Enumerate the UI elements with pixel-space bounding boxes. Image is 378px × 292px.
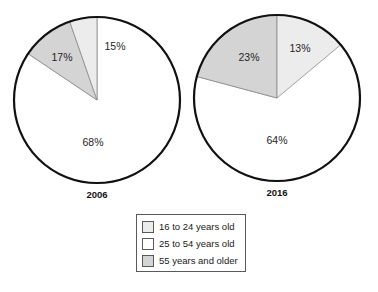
legend-label-55-plus: 55 years and older — [159, 255, 238, 267]
pie-label-2006-55-plus: 17% — [51, 51, 72, 63]
legend-swatch-icon-55-plus — [142, 255, 154, 267]
pie-chart-2006: 15% 17% 68% 2006 — [14, 17, 180, 200]
legend-item-25-54: 25 to 54 years old — [142, 236, 240, 252]
pie-label-2016-16-24: 13% — [289, 42, 310, 54]
pie-label-2016-25-54: 64% — [266, 134, 287, 146]
pie-title-2016: 2016 — [266, 187, 287, 198]
chart-legend: 16 to 24 years old 25 to 54 years old 55… — [136, 214, 246, 272]
pie-chart-2016: 13% 23% 64% 2016 — [194, 15, 360, 198]
legend-label-16-24: 16 to 24 years old — [159, 221, 235, 233]
pie-title-2006: 2006 — [86, 189, 107, 200]
legend-item-16-24: 16 to 24 years old — [142, 219, 240, 235]
legend-swatch-icon-25-54 — [142, 238, 154, 250]
pie-label-2006-16-24: 15% — [104, 40, 125, 52]
legend-label-25-54: 25 to 54 years old — [159, 238, 235, 250]
pie-label-2006-25-54: 68% — [82, 136, 103, 148]
legend-item-55-plus: 55 years and older — [142, 253, 240, 269]
chart-figure: 15% 17% 68% 2006 13% 23% 64% 2016 16 to … — [0, 0, 378, 292]
legend-swatch-icon-16-24 — [142, 221, 154, 233]
pie-label-2016-55-plus: 23% — [238, 51, 259, 63]
